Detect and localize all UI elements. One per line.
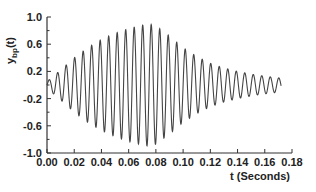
x-tick-label: 0.18 <box>281 156 302 168</box>
x-axis-title: t (Seconds) <box>230 170 290 182</box>
x-tick-label: 0.08 <box>145 156 166 168</box>
y-tick-label: -0.6 <box>23 120 42 132</box>
x-tick-label: 0.00 <box>36 156 57 168</box>
x-axis: 0.000.020.040.060.080.100.120.140.160.18 <box>36 149 302 168</box>
x-tick-label: 0.12 <box>200 156 221 168</box>
y-tick-label: 0.2 <box>27 65 42 77</box>
y-tick-label: -0.2 <box>23 93 42 105</box>
x-tick-label: 0.14 <box>227 156 249 168</box>
y-tick-label: 0.6 <box>27 38 42 50</box>
y-tick-label: 1.0 <box>27 11 42 23</box>
x-tick-label: 0.16 <box>254 156 275 168</box>
chart-plot: 1.00.60.2-0.2-0.6-1.0 0.000.020.040.060.… <box>0 0 316 192</box>
x-tick-label: 0.10 <box>172 156 193 168</box>
y-axis-title: ybp(t) <box>4 37 19 64</box>
x-tick-label: 0.02 <box>64 156 85 168</box>
x-tick-label: 0.06 <box>118 156 139 168</box>
signal-line <box>47 24 281 145</box>
y-axis: 1.00.60.2-0.2-0.6-1.0 <box>23 11 51 159</box>
x-tick-label: 0.04 <box>91 156 113 168</box>
